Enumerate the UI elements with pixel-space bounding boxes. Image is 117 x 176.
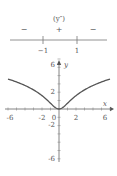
plot: -6 -2 0 2 6 6 2 -2 -6 x y (5, 59, 114, 163)
x-axis-arrow-icon (110, 107, 114, 111)
x-axis-label: x (103, 100, 107, 108)
breakpoint-label: −1 (38, 47, 48, 55)
y-tick-label: 6 (51, 61, 56, 69)
x-tick-label: 2 (74, 114, 78, 122)
sign-chart: (y″) − + − −1 1 (10, 15, 107, 55)
x-tick-label: 6 (103, 114, 108, 122)
sign-interval-1: − (21, 25, 28, 34)
x-tick-label: -6 (7, 114, 14, 122)
y-tick-label: 2 (51, 88, 55, 96)
x-tick-label: -2 (39, 114, 46, 122)
y-tick-label: -2 (48, 121, 55, 129)
y-axis-label: y (63, 61, 69, 69)
sign-interval-2: + (56, 25, 63, 34)
y-tick-label: -6 (48, 155, 55, 163)
sign-chart-title: (y″) (53, 15, 65, 23)
sign-interval-3: − (90, 25, 97, 34)
breakpoint-label: 1 (75, 47, 79, 55)
figure: (y″) − + − −1 1 (0, 0, 117, 176)
y-axis-arrow-icon (57, 60, 61, 65)
